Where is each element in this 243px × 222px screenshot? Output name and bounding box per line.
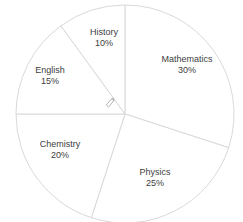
slice-label-history: History 10% [90,27,118,49]
slice-name: Chemistry [40,139,81,150]
slice-name: Physics [139,167,170,178]
slice-percent: 15% [35,76,65,87]
slice-label-mathematics: Mathematics 30% [161,54,212,76]
pie-chart [0,0,243,222]
slice-percent: 20% [40,150,81,161]
slice-name: English [35,65,65,76]
slice-label-english: English 15% [35,65,65,87]
slice-percent: 10% [90,38,118,49]
slice-label-chemistry: Chemistry 20% [40,139,81,161]
slice-percent: 30% [161,65,212,76]
slice-percent: 25% [139,178,170,189]
slice-name: History [90,27,118,38]
slice-name: Mathematics [161,54,212,65]
slice-label-physics: Physics 25% [139,167,170,189]
